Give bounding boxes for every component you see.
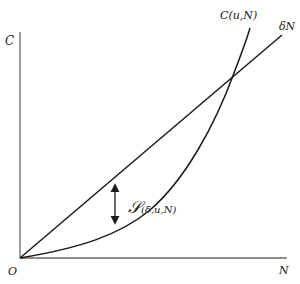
gap-label: 𝒮(δ,u,N) [128,199,176,216]
origin-label: O [8,266,17,277]
cost-curve-c-u-n [20,28,250,258]
cost-curve-label: C(u,N) [220,10,257,21]
diagram-svg [0,0,300,284]
gap-label-args: (δ,u,N) [141,204,176,215]
diagram-canvas: C N O δN C(u,N) 𝒮(δ,u,N) [0,0,300,284]
linear-line-delta-n [20,35,282,258]
linear-line-label: δN [279,21,295,32]
x-axis-label: N [279,265,289,276]
gap-label-symbol: 𝒮 [128,197,141,217]
y-axis-label: C [5,35,14,47]
